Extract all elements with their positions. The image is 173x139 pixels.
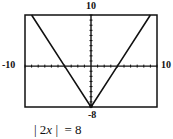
equation-caption: | 2x | = 8 xyxy=(34,123,82,137)
equation-rest: | = 8 xyxy=(52,122,81,137)
vertex-point xyxy=(89,104,93,108)
graph-plot xyxy=(0,0,173,139)
